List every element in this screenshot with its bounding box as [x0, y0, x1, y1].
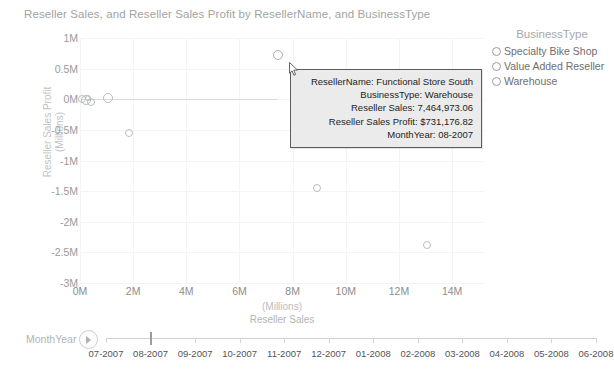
legend-item[interactable]: Specialty Bike Shop [492, 44, 610, 59]
data-point[interactable] [423, 241, 431, 249]
legend-item[interactable]: Warehouse [492, 74, 610, 89]
legend-circle-icon [492, 77, 501, 86]
timeline-tick-label[interactable]: 06-2008 [573, 348, 614, 360]
x-axis-tick-label: 14M [432, 286, 472, 297]
y-axis-tick-label: 0.5M [24, 64, 78, 75]
timeline-thumb[interactable] [150, 332, 152, 345]
x-axis-title-line1: (Millions) [80, 300, 484, 313]
y-axis-tick-label: -1M [24, 156, 78, 167]
timeline-tick-label[interactable]: 08-2007 [128, 348, 174, 360]
timeline-tick-label[interactable]: 07-2007 [83, 348, 129, 360]
gridline-horizontal [80, 191, 484, 192]
timeline-tick-label[interactable]: 02-2008 [395, 348, 441, 360]
timeline-tick-label[interactable]: 11-2007 [261, 348, 307, 360]
y-axis-tick-label: 0M [24, 94, 78, 105]
gridline-horizontal [80, 283, 484, 284]
x-axis-title-line2: Reseller Sales [80, 313, 484, 326]
y-axis-tick-label: -0.5M [24, 125, 78, 136]
legend: BusinessType Specialty Bike ShopValue Ad… [492, 28, 610, 89]
x-axis-tick-label: 4M [166, 286, 206, 297]
data-point[interactable] [125, 129, 133, 137]
timeline-label: MonthYear [26, 333, 76, 345]
timeline-tick [462, 338, 463, 343]
timeline-tick [596, 338, 597, 343]
data-point[interactable] [87, 98, 95, 106]
x-axis-tick-label: 0M [60, 286, 100, 297]
y-axis-ticks: 1M0.5M0M-0.5M-1M-1.5M-2M-2.5M-3M [20, 38, 78, 283]
gridline-horizontal [80, 252, 484, 253]
play-button[interactable] [79, 330, 98, 349]
legend-item-label: Specialty Bike Shop [504, 44, 597, 59]
data-point[interactable] [273, 50, 283, 60]
x-axis-ticks: 0M2M4M6M8M10M12M14M [80, 286, 484, 300]
y-axis-tick-label: -1.5M [24, 186, 78, 197]
gridline-horizontal [80, 38, 484, 39]
y-axis-tick-label: 1M [24, 33, 78, 44]
gridline-vertical [186, 38, 187, 283]
legend-circle-icon [492, 62, 501, 71]
mouse-cursor-icon [289, 62, 300, 77]
timeline-tick [106, 338, 107, 343]
tooltip-row: MonthYear: 08-2007 [297, 128, 473, 141]
timeline-tick-label[interactable]: 01-2008 [350, 348, 396, 360]
x-axis-tick-label: 8M [273, 286, 313, 297]
timeline-tick-label[interactable]: 10-2007 [217, 348, 263, 360]
tooltip-row: ResellerName: Functional Store South [297, 75, 473, 88]
tooltip-row: Reseller Sales Profit: $731,176.82 [297, 115, 473, 128]
timeline-tick-label[interactable]: 09-2007 [172, 348, 218, 360]
x-axis-tick-label: 12M [379, 286, 419, 297]
legend-item-label: Value Added Reseller [504, 59, 604, 74]
timeline-tick [507, 338, 508, 343]
x-axis-tick-label: 10M [326, 286, 366, 297]
timeline-track[interactable] [106, 338, 596, 339]
timeline-tick [373, 338, 374, 343]
timeline-tick [195, 338, 196, 343]
legend-circle-icon [492, 47, 501, 56]
x-axis-title: (Millions) Reseller Sales [80, 300, 484, 326]
tooltip-row: BusinessType: Warehouse [297, 88, 473, 101]
data-point[interactable] [313, 184, 321, 192]
timeline-slider[interactable]: MonthYear 07-200708-200709-200710-200711… [0, 326, 614, 374]
play-icon [86, 336, 91, 344]
legend-item[interactable]: Value Added Reseller [492, 59, 610, 74]
data-point-tooltip: ResellerName: Functional Store SouthBusi… [290, 69, 482, 148]
timeline-tick-labels: 07-200708-200709-200710-200711-200712-20… [106, 348, 596, 362]
timeline-tick-label[interactable]: 12-2007 [306, 348, 352, 360]
gridline-vertical [80, 38, 81, 283]
data-point[interactable] [103, 93, 113, 103]
x-axis-tick-label: 6M [219, 286, 259, 297]
timeline-tick [240, 338, 241, 343]
legend-item-label: Warehouse [504, 74, 557, 89]
gridline-horizontal [80, 161, 484, 162]
gridline-vertical [133, 38, 134, 283]
gridline-horizontal [80, 222, 484, 223]
y-axis-tick-label: -2M [24, 217, 78, 228]
timeline-tick [329, 338, 330, 343]
timeline-tick [284, 338, 285, 343]
timeline-tick [551, 338, 552, 343]
timeline-tick-label[interactable]: 05-2008 [528, 348, 574, 360]
timeline-tick-label[interactable]: 04-2008 [484, 348, 530, 360]
y-axis-tick-label: -2.5M [24, 247, 78, 258]
gridline-vertical [239, 38, 240, 283]
timeline-tick-label[interactable]: 03-2008 [439, 348, 485, 360]
tooltip-row: Reseller Sales: 7,464,973.06 [297, 101, 473, 114]
timeline-tick [418, 338, 419, 343]
x-axis-tick-label: 2M [113, 286, 153, 297]
legend-title: BusinessType [494, 28, 610, 40]
legend-items: Specialty Bike ShopValue Added ResellerW… [492, 44, 610, 89]
